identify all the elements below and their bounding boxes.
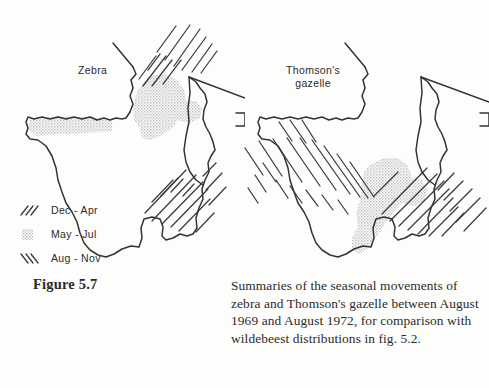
map-gazelle-svg: [232, 0, 489, 290]
stipple-swatch-icon: [20, 227, 42, 242]
forward-hatch-swatch-icon: [20, 203, 42, 218]
gazelle-aug-nov-hatch: [245, 120, 374, 214]
legend-label-may-jul: May - Jul: [51, 228, 97, 240]
zebra-dec-apr-hatch-north: [139, 25, 217, 86]
figure-page: Zebra Thomson's gazelle Dec - Apr: [0, 0, 489, 388]
legend: Dec - Apr May - Jul: [20, 198, 170, 270]
species-label-zebra: Zebra: [78, 64, 107, 77]
legend-item-may-jul: May - Jul: [20, 222, 170, 246]
figure-caption: Summaries of the seasonal movements of z…: [231, 277, 483, 347]
species-label-gazelle: Thomson's gazelle: [286, 64, 340, 90]
back-hatch-swatch-icon: [20, 251, 42, 266]
legend-label-dec-apr: Dec - Apr: [51, 204, 98, 216]
legend-label-aug-nov: Aug - Nov: [51, 252, 101, 264]
legend-item-aug-nov: Aug - Nov: [20, 246, 170, 270]
map-gazelle: [232, 0, 489, 290]
figure-number-label: Figure 5.7: [33, 276, 98, 293]
legend-item-dec-apr: Dec - Apr: [20, 198, 170, 222]
